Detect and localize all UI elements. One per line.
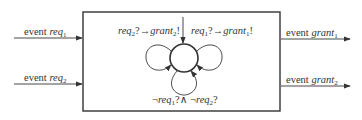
left-self-loop	[146, 45, 171, 70]
output-label-grant1: event grant1	[286, 28, 338, 40]
state-circle	[170, 44, 198, 72]
right-self-loop	[197, 45, 222, 70]
transition-label-right: req1?→grant1!	[191, 26, 253, 38]
bottom-self-loop	[171, 71, 196, 95]
input-label-req2: event req2	[24, 73, 66, 85]
output-label-grant2: event grant2	[286, 75, 338, 87]
transition-label-bottom: ¬req1?∧ ¬req2?	[152, 95, 218, 107]
input-label-req1: event req1	[24, 27, 66, 39]
transition-label-left: req2?→grant2!	[118, 26, 180, 38]
